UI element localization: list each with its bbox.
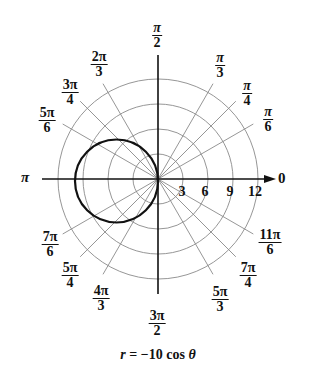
angle-label-11pi-6: 11π 6 [259, 229, 282, 256]
denominator: 6 [259, 243, 282, 256]
spoke-4pi-3 [103, 179, 158, 274]
radial-tick-3: 3 [179, 184, 186, 200]
denominator: 3 [93, 299, 110, 312]
denominator: 2 [149, 324, 166, 337]
equation-lhs: r [120, 347, 125, 362]
curve-r-equals-neg10-cos-theta [75, 140, 158, 223]
spoke-2pi-3 [103, 84, 158, 179]
angle-label-5pi-3: 5π 3 [212, 286, 229, 313]
numerator: 7π [240, 262, 257, 276]
angle-label-pi-4: π 4 [242, 80, 252, 107]
equation-rhs: −10 cos [141, 347, 185, 362]
angle-label-5pi-4: 5π 4 [62, 262, 79, 289]
spoke-pi-6 [158, 124, 253, 179]
equation-variable: θ [188, 347, 195, 362]
numerator: 11π [259, 229, 282, 243]
equation-caption: r = −10 cos θ [120, 347, 195, 363]
angle-label-pi-2: π 2 [152, 22, 162, 49]
numerator: 2π [91, 51, 108, 65]
axis-arrowhead-icon [264, 175, 276, 183]
numerator: 3π [149, 310, 166, 324]
spoke-pi-4 [158, 101, 236, 179]
spoke-5pi-4 [80, 179, 158, 257]
spoke-pi-3 [158, 84, 213, 179]
numerator: π [242, 80, 252, 94]
numerator: 5π [62, 262, 79, 276]
numerator: 5π [39, 107, 56, 121]
angle-label-pi: π [21, 169, 29, 186]
radial-tick-12: 12 [248, 184, 262, 200]
angle-label-pi-3: π 3 [215, 52, 225, 79]
spoke-7pi-4 [158, 179, 236, 257]
angle-label-4pi-3: 4π 3 [93, 285, 110, 312]
angle-label-7pi-6: 7π 6 [42, 231, 59, 258]
angle-label-3pi-4: 3π 4 [62, 79, 79, 106]
numerator: 5π [212, 286, 229, 300]
angle-label-2pi-3: 2π 3 [91, 51, 108, 78]
equation-equals: = [129, 347, 137, 362]
denominator: 6 [39, 121, 56, 134]
denominator: 3 [91, 65, 108, 78]
denominator: 4 [240, 276, 257, 289]
angle-label-7pi-4: 7π 4 [240, 262, 257, 289]
denominator: 6 [263, 120, 273, 133]
numerator: π [263, 106, 273, 120]
angle-label-5pi-6: 5π 6 [39, 107, 56, 134]
radial-tick-6: 6 [202, 184, 209, 200]
angle-label-3pi-2: 3π 2 [149, 310, 166, 337]
numerator: 3π [62, 79, 79, 93]
radial-tick-9: 9 [227, 184, 234, 200]
numerator: 4π [93, 285, 110, 299]
numerator: π [215, 52, 225, 66]
numerator: 7π [42, 231, 59, 245]
denominator: 4 [62, 93, 79, 106]
angle-label-pi-6: π 6 [263, 106, 273, 133]
denominator: 4 [62, 276, 79, 289]
denominator: 2 [152, 36, 162, 49]
spoke-7pi-6 [63, 179, 158, 234]
numerator: π [152, 22, 162, 36]
angle-label-0: 0 [278, 170, 286, 187]
denominator: 3 [212, 300, 229, 313]
denominator: 4 [242, 94, 252, 107]
denominator: 6 [42, 245, 59, 258]
denominator: 3 [215, 66, 225, 79]
